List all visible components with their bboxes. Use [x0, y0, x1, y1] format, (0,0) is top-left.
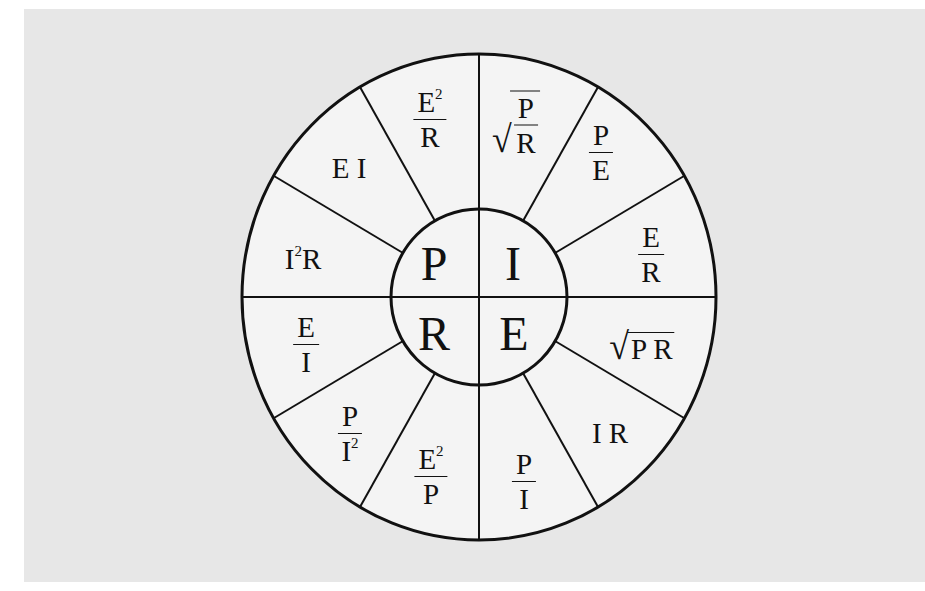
formula-p-over-i-squared: PI2	[338, 402, 362, 466]
quadrant-P: P	[421, 240, 448, 288]
quadrant-R: R	[418, 310, 450, 358]
quadrant-E: E	[499, 310, 528, 358]
formula-e-squared-over-p: E2P	[414, 445, 447, 509]
formula-e-over-r: ER	[638, 223, 664, 287]
quadrant-I: I	[505, 240, 521, 288]
formula-e-squared-over-r: E2R	[413, 88, 446, 152]
formula-e-i: E I	[332, 154, 367, 183]
formula-p-over-e: PE	[589, 121, 613, 185]
formula-i-r: I R	[592, 419, 628, 448]
formula-sqrt-p-over-r: √PR	[492, 91, 540, 158]
formula-i-squared-r: I2R	[285, 245, 322, 274]
formula-e-over-i: EI	[293, 313, 319, 377]
formula-sqrt-pr: √P R	[609, 328, 674, 364]
formula-p-over-i: PI	[512, 450, 536, 514]
ohms-law-wheel	[0, 0, 925, 591]
